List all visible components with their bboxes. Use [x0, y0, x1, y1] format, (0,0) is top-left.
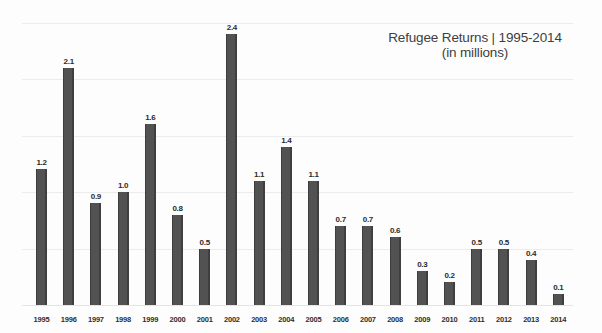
bar[interactable] [417, 271, 428, 305]
chart-title: Refugee Returns | 1995-2014 [368, 30, 582, 45]
bar-value-label: 1.1 [246, 170, 273, 179]
bar[interactable] [362, 226, 373, 305]
bar-group[interactable]: 1.61999 [137, 0, 164, 333]
bar-value-label: 1.0 [110, 181, 137, 190]
bar-value-label: 0.7 [327, 215, 354, 224]
bar-group[interactable]: 1.12005 [300, 0, 327, 333]
bar-group[interactable]: 1.42004 [273, 0, 300, 333]
bar-group[interactable]: 0.52001 [191, 0, 218, 333]
bar[interactable] [390, 237, 401, 305]
bar[interactable] [118, 192, 129, 305]
bar-group[interactable]: 0.72006 [327, 0, 354, 333]
bar-value-label: 0.5 [463, 238, 490, 247]
bar-value-label: 0.3 [409, 260, 436, 269]
bar-value-label: 0.5 [191, 238, 218, 247]
bar-value-label: 1.6 [137, 113, 164, 122]
bar[interactable] [471, 249, 482, 306]
bar-value-label: 0.1 [545, 283, 572, 292]
bar-value-label: 1.1 [300, 170, 327, 179]
bar-group[interactable]: 0.82000 [164, 0, 191, 333]
bar[interactable] [308, 181, 319, 305]
bar-value-label: 0.5 [490, 238, 517, 247]
bar-value-label: 0.2 [436, 271, 463, 280]
bar-value-label: 0.7 [354, 215, 381, 224]
bar-group[interactable]: 1.21995 [28, 0, 55, 333]
bar[interactable] [335, 226, 346, 305]
bar-value-label: 0.4 [518, 249, 545, 258]
refugee-returns-bar-chart: 1.219952.119960.919971.019981.619990.820… [0, 0, 602, 333]
bar[interactable] [199, 249, 210, 306]
chart-subtitle: (in millions) [368, 45, 582, 60]
bar[interactable] [526, 260, 537, 305]
x-axis-tick-label: 2014 [543, 315, 574, 324]
bar-value-label: 0.6 [382, 226, 409, 235]
bar[interactable] [36, 169, 47, 305]
chart-title-block: Refugee Returns | 1995-2014 (in millions… [368, 30, 582, 60]
bar-group[interactable]: 2.11996 [55, 0, 82, 333]
bar[interactable] [254, 181, 265, 305]
bar[interactable] [444, 282, 455, 305]
bar-group[interactable]: 1.12003 [246, 0, 273, 333]
bar[interactable] [90, 203, 101, 305]
bar-value-label: 1.2 [28, 158, 55, 167]
bar-value-label: 2.4 [218, 23, 245, 32]
bar-value-label: 0.8 [164, 204, 191, 213]
bar[interactable] [145, 124, 156, 305]
bar[interactable] [553, 294, 564, 305]
bar[interactable] [63, 68, 74, 305]
bar[interactable] [498, 249, 509, 306]
bar-group[interactable]: 0.91997 [82, 0, 109, 333]
bar-value-label: 1.4 [273, 136, 300, 145]
bar-group[interactable]: 2.42002 [218, 0, 245, 333]
bar[interactable] [226, 34, 237, 305]
bar-value-label: 2.1 [55, 57, 82, 66]
bar[interactable] [172, 215, 183, 305]
bar-group[interactable]: 1.01998 [110, 0, 137, 333]
bar-value-label: 0.9 [82, 192, 109, 201]
bar[interactable] [281, 147, 292, 305]
